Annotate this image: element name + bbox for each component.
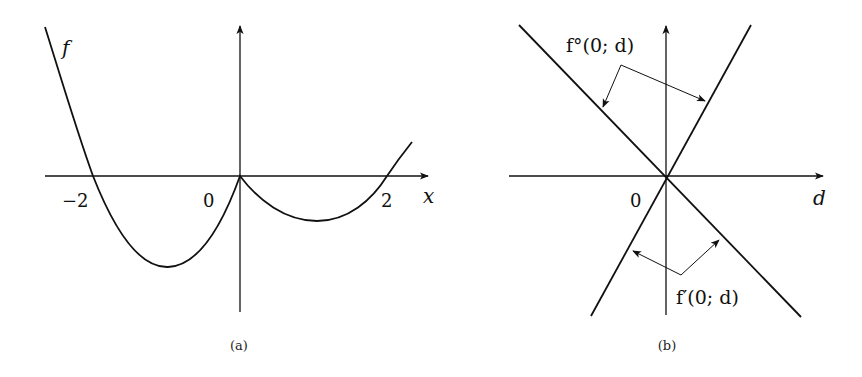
function-label-f: f — [60, 36, 73, 60]
figure-canvas: f −2 0 2 x (a) f°(0; d) 0 d f′(0; d) (b) — [0, 0, 862, 377]
origin-label-b: 0 — [630, 190, 641, 211]
panel-a: f −2 0 2 x (a) — [45, 26, 434, 353]
directional-derivative-label: f′(0; d) — [676, 286, 739, 308]
tick-label-neg2: −2 — [62, 190, 89, 211]
clarke-derivative-pointer-right — [621, 65, 705, 101]
function-curve-f — [45, 27, 412, 267]
panel-b: f°(0; d) 0 d f′(0; d) (b) — [509, 25, 826, 353]
directional-derivative-pointer-left — [633, 251, 681, 275]
caption-a: (a) — [230, 338, 248, 353]
clarke-derivative-pointer-left — [603, 65, 621, 107]
directional-derivative-pointer-right — [681, 240, 719, 275]
x-axis-label: x — [423, 184, 434, 208]
d-axis-label: d — [813, 186, 826, 210]
caption-b: (b) — [658, 338, 676, 353]
clarke-derivative-label: f°(0; d) — [566, 34, 634, 56]
line-positive-slope — [591, 25, 751, 316]
line-negative-slope — [519, 25, 801, 317]
origin-label: 0 — [203, 190, 214, 211]
tick-label-2: 2 — [381, 190, 392, 211]
